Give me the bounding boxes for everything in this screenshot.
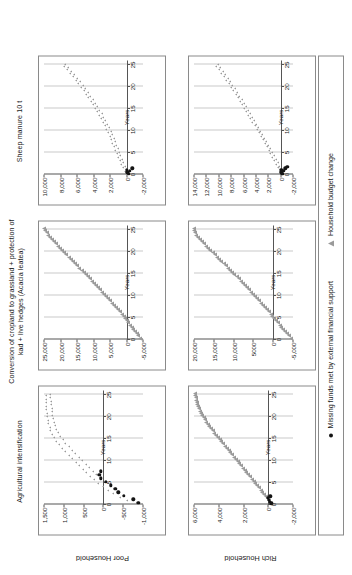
x-tick-mark: [268, 416, 271, 417]
x-tick-mark: [127, 152, 130, 153]
y-tick-label: -5,000: [140, 342, 147, 360]
y-tick-mark: [293, 174, 294, 177]
data-point-triangle: [61, 447, 63, 449]
data-point-triangle: [238, 95, 240, 97]
data-point-triangle: [92, 470, 94, 472]
data-point-triangle: [102, 485, 104, 487]
x-tick-mark: [103, 460, 106, 461]
data-point-triangle: [118, 151, 120, 153]
y-tick-label: 1,500: [41, 507, 48, 522]
data-point-triangle: [261, 133, 263, 135]
data-point-triangle: [45, 405, 47, 407]
x-tick-mark: [281, 108, 284, 109]
data-point-triangle: [227, 77, 229, 79]
data-point-triangle: [224, 73, 226, 75]
y-tick-mark: [143, 504, 144, 507]
x-tick-label: 10: [105, 457, 112, 464]
data-point-triangle: [70, 70, 72, 72]
data-point-triangle: [49, 426, 51, 428]
y-tick-label: 500: [80, 507, 87, 517]
x-tick-label: 20: [129, 83, 136, 90]
y-tick-label: 25,000: [41, 342, 48, 361]
data-point-triangle: [117, 147, 119, 149]
data-point-triangle: [82, 84, 84, 86]
gridline-vertical: [44, 415, 143, 416]
data-point-triangle: [126, 500, 128, 502]
data-point-triangle: [51, 433, 53, 435]
data-point-triangle: [87, 91, 89, 93]
y-tick-label: -2,000: [290, 177, 297, 195]
data-point-triangle: [104, 119, 106, 121]
y-tick-mark: [93, 339, 94, 342]
legend-entry-household-budget-change: Household budget change: [327, 153, 335, 247]
x-axis-title: Years: [269, 274, 276, 290]
triangle-icon: [328, 241, 334, 247]
x-tick-label: 20: [129, 248, 136, 255]
x-tick-mark: [268, 482, 271, 483]
data-point-triangle: [255, 123, 257, 125]
data-point-triangle: [124, 165, 126, 167]
gridline-vertical: [194, 129, 293, 130]
x-tick-label: 0: [129, 337, 136, 340]
y-tick-label: -2,000: [290, 507, 297, 525]
data-point-triangle: [78, 456, 80, 458]
x-tick-label: 10: [129, 127, 136, 134]
data-point-dot: [98, 472, 101, 475]
x-tick-label: 5: [129, 150, 136, 153]
y-tick-mark: [194, 504, 195, 507]
panel-poor-conversion-cropland: -5,00005,00010,00015,00020,00025,0000510…: [38, 220, 166, 370]
data-point-triangle: [193, 391, 197, 395]
data-point-triangle: [51, 410, 53, 412]
y-tick-mark: [77, 339, 78, 342]
y-tick-label: 4,000: [215, 507, 222, 522]
x-axis-title: Years: [123, 274, 130, 290]
data-point-triangle: [278, 165, 280, 167]
y-tick-mark: [206, 174, 207, 177]
gridline-vertical: [194, 481, 293, 482]
gridline-vertical: [44, 393, 143, 394]
gridline-vertical: [194, 459, 293, 460]
data-point-triangle: [64, 450, 66, 452]
data-point-triangle: [49, 396, 51, 398]
data-point-triangle: [98, 109, 100, 111]
data-point-triangle: [68, 445, 70, 447]
data-point-triangle: [57, 431, 59, 433]
data-point-triangle: [50, 403, 52, 405]
x-tick-label: 5: [283, 150, 290, 153]
plot-area: -5,0000500010,00015,00020,0000510152025Y…: [194, 225, 293, 339]
y-tick-label: 10,000: [215, 177, 222, 196]
x-tick-label: 25: [105, 391, 112, 398]
data-point-triangle: [85, 471, 87, 473]
x-tick-mark: [268, 394, 271, 395]
x-tick-mark: [127, 130, 130, 131]
data-point-triangle: [51, 414, 53, 416]
x-tick-mark: [127, 295, 130, 296]
data-point-triangle: [259, 130, 261, 132]
data-point-triangle: [114, 140, 116, 142]
data-point-dot: [269, 494, 272, 497]
y-tick-label: 0: [265, 507, 272, 510]
x-tick-label: 10: [129, 292, 136, 299]
gridline-vertical: [194, 437, 293, 438]
data-point-triangle: [58, 443, 60, 445]
y-tick-label: 6,000: [240, 177, 247, 192]
data-point-triangle: [52, 417, 54, 419]
y-axis-line: [44, 503, 143, 504]
y-tick-mark: [60, 339, 61, 342]
data-point-triangle: [275, 158, 277, 160]
y-tick-label: 2,000: [107, 177, 114, 192]
y-tick-label: 5,000: [107, 342, 114, 357]
column-title-agricultural-intensification: Agricultural intensification: [16, 391, 25, 531]
x-axis-title: Years: [277, 109, 284, 125]
data-point-triangle: [45, 401, 47, 403]
data-point-triangle: [49, 393, 51, 395]
data-point-dot: [132, 497, 135, 500]
x-tick-label: 25: [283, 61, 290, 68]
x-tick-label: 25: [129, 226, 136, 233]
data-point-triangle: [85, 463, 87, 465]
data-point-triangle: [94, 102, 96, 104]
data-point-triangle: [122, 161, 124, 163]
y-tick-mark: [268, 174, 269, 177]
x-tick-mark: [127, 339, 130, 340]
data-point-triangle: [64, 63, 66, 65]
